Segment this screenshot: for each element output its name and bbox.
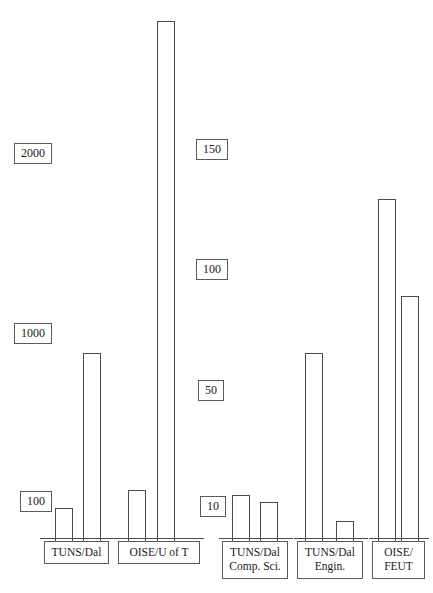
group-oise-u-of-t-label-line1: OISE/U of T: [129, 546, 188, 558]
group-tuns-dal-engin-label-line2: Engin.: [302, 559, 358, 573]
group-oise-u-of-t-label: OISE/U of T: [118, 541, 200, 564]
left-axis-tick-1000: 1000: [14, 323, 52, 344]
group-oise-feut-label-line1: OISE/: [384, 546, 413, 558]
group-tuns-dal-engin-label-line1: TUNS/Dal: [305, 546, 355, 558]
group-tuns-dal-engin-label: TUNS/DalEngin.: [297, 541, 363, 579]
bar-oise-uoft-2[interactable]: [157, 21, 175, 538]
bar-tuns-dal-1[interactable]: [55, 508, 73, 538]
group-tuns-dal-label-line1: TUNS/Dal: [52, 546, 102, 558]
group-oise-feut-label-line2: FEUT: [377, 559, 420, 573]
left-axis-tick-100: 100: [20, 491, 52, 512]
middle-axis-tick-10: 10: [200, 496, 226, 517]
bar-oise-feut-2[interactable]: [401, 296, 419, 538]
middle-axis-tick-150: 150: [196, 139, 228, 160]
bar-oise-uoft-1[interactable]: [128, 490, 146, 538]
group-tuns-dal-baseline: [40, 538, 116, 539]
group-tuns-dal-comp-sci-label: TUNS/DalComp. Sci.: [222, 541, 288, 579]
bar-oise-feut-1[interactable]: [378, 199, 396, 538]
middle-axis-tick-50: 50: [198, 380, 224, 401]
left-axis-tick-2000: 2000: [14, 143, 52, 164]
middle-axis-tick-100: 100: [196, 259, 228, 280]
plot-area: TUNS/DalOISE/U of TTUNS/DalComp. Sci.TUN…: [0, 0, 433, 593]
bar-tuns-dal-eng-1[interactable]: [305, 353, 323, 538]
group-tuns-dal-comp-sci-label-line1: TUNS/Dal: [230, 546, 280, 558]
group-tuns-dal-label: TUNS/Dal: [44, 541, 109, 564]
grouped-bar-chart: TUNS/DalOISE/U of TTUNS/DalComp. Sci.TUN…: [0, 0, 433, 593]
bar-tuns-dal-eng-2[interactable]: [336, 521, 354, 538]
group-oise-feut-label: OISE/FEUT: [372, 541, 425, 579]
group-oise-u-of-t-baseline: [116, 538, 204, 539]
bar-tuns-dal-cs-1[interactable]: [232, 495, 250, 538]
bar-tuns-dal-cs-2[interactable]: [260, 502, 278, 538]
group-tuns-dal-comp-sci-baseline: [219, 538, 293, 539]
group-tuns-dal-comp-sci-label-line2: Comp. Sci.: [227, 559, 283, 573]
bar-tuns-dal-2[interactable]: [83, 353, 101, 538]
